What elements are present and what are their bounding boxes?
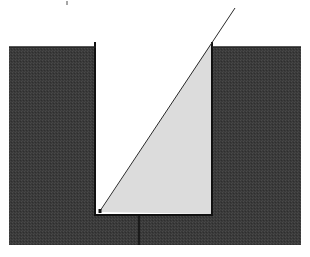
block-left [9, 47, 96, 245]
block-right [212, 47, 301, 245]
base-marker [99, 209, 102, 213]
block-bottom [96, 215, 212, 245]
slot-wedge-diagram [0, 0, 310, 257]
